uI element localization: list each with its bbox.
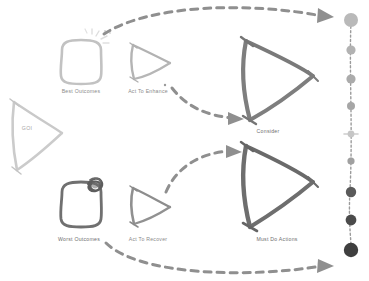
scale-dot[interactable] [347, 157, 354, 164]
label-consider: Consider [257, 129, 280, 134]
connector-best-to-scale-top [104, 8, 334, 34]
label-goi: GOI [22, 126, 32, 131]
node-best-outcomes[interactable] [61, 40, 102, 84]
scale-dot[interactable] [346, 215, 357, 226]
scale-dot[interactable] [344, 243, 358, 257]
connector-enhance-to-consider [172, 88, 244, 125]
diagram-svg [0, 0, 369, 281]
label-act-to-recover: Act To Recover [129, 237, 168, 242]
dark-scribble-icon [88, 178, 102, 191]
node-worst-outcomes[interactable] [61, 182, 102, 227]
scale-dot[interactable] [344, 13, 358, 27]
dot-accent-enhance [164, 84, 166, 86]
node-goi[interactable] [10, 99, 62, 174]
scale-dot[interactable] [347, 102, 355, 110]
node-consider[interactable] [241, 37, 318, 124]
node-act-to-enhance[interactable] [130, 43, 170, 82]
scale-dot[interactable] [346, 45, 355, 54]
label-must-do-actions: Must Do Actions [256, 237, 297, 242]
label-act-to-enhance: Act To Enhance [128, 89, 168, 94]
severity-scale[interactable] [344, 13, 358, 257]
scale-dot[interactable] [346, 187, 356, 197]
connector-recover-to-mustdo [166, 145, 242, 192]
node-must-do-actions[interactable] [241, 142, 318, 231]
label-best-outcomes: Best Outcomes [62, 89, 101, 94]
label-worst-outcomes: Worst Outcomes [58, 237, 100, 242]
node-act-to-recover[interactable] [130, 186, 170, 227]
diagram-canvas: GOI Best Outcomes Act To Enhance Conside… [0, 0, 369, 281]
scale-dot[interactable] [346, 74, 355, 83]
scale-dot[interactable] [348, 131, 355, 138]
connector-worst-to-scale-bottom [106, 243, 334, 273]
